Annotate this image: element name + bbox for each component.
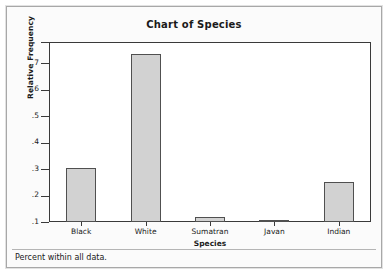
y-axis-tick: .4	[41, 143, 49, 144]
x-axis-tick-label: Sumatran	[192, 227, 229, 236]
x-axis-tick	[274, 222, 275, 226]
bar-indian	[324, 182, 354, 222]
x-axis-tick	[146, 222, 147, 226]
y-axis-tick-label: .1	[32, 217, 39, 226]
bar-white	[131, 54, 161, 222]
y-axis-tick-label: .5	[32, 111, 39, 120]
y-axis-tick: .3	[41, 169, 49, 170]
bar-black	[66, 168, 96, 222]
chart-title: Chart of Species	[7, 19, 381, 30]
y-axis-tick: .5	[41, 116, 49, 117]
y-axis-tick-label: .2	[32, 190, 39, 199]
x-axis-tick-label: Indian	[327, 227, 350, 236]
x-axis-tick	[210, 222, 211, 226]
footer-divider	[12, 249, 376, 250]
y-axis-tick-label: .7	[32, 58, 39, 67]
y-axis-tick: .2	[41, 196, 49, 197]
chart-panel: Chart of Species Relative Frequency .1.2…	[6, 6, 382, 268]
y-axis-tick-label: .3	[32, 164, 39, 173]
x-axis-tick-label: Javan	[264, 227, 285, 236]
y-axis-tick-label: .4	[32, 137, 39, 146]
bar-sumatran	[195, 217, 225, 222]
y-axis-tick: .7	[41, 63, 49, 64]
plot-area	[49, 42, 371, 222]
x-axis-tick	[81, 222, 82, 226]
x-axis-tick-label: Black	[71, 227, 91, 236]
footer-note: Percent within all data.	[15, 253, 107, 262]
x-axis-tick-label: White	[135, 227, 157, 236]
x-axis-tick	[339, 222, 340, 226]
y-axis-tick: .6	[41, 90, 49, 91]
x-axis-title: Species	[49, 239, 371, 248]
y-axis-tick	[41, 42, 49, 43]
y-axis-tick: .1	[41, 222, 49, 223]
y-axis-tick-label: .6	[32, 84, 39, 93]
bar-javan	[259, 220, 289, 222]
